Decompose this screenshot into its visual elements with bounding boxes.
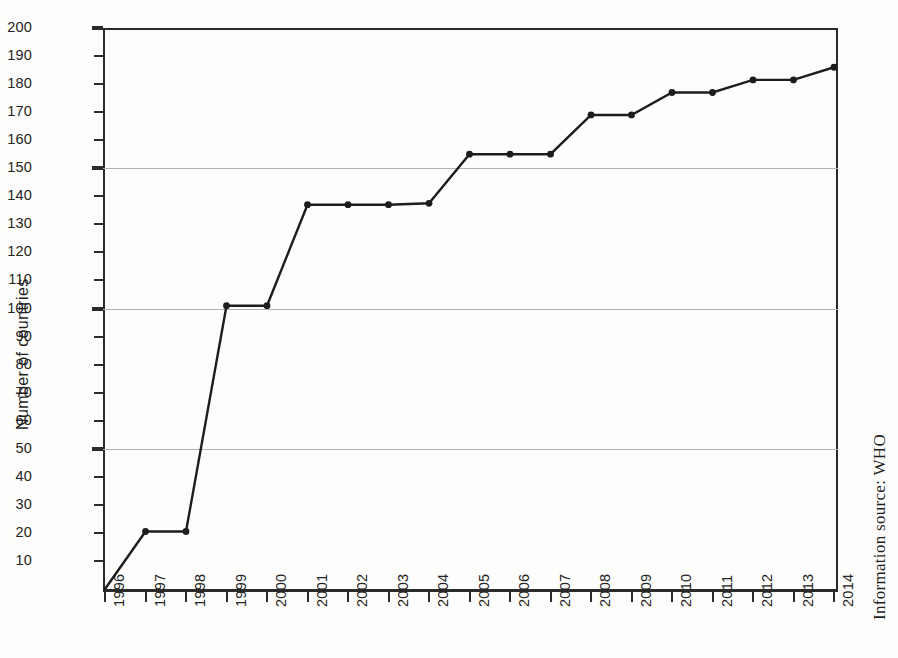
y-tick-90: [94, 336, 103, 338]
y-tick-label-50: 50: [0, 440, 32, 456]
x-tick-2011: [712, 591, 714, 602]
y-tick-50: [92, 447, 103, 451]
x-tick-2013: [793, 591, 795, 602]
y-tick-label-170: 170: [0, 103, 32, 119]
y-tick-140: [94, 195, 103, 197]
y-tick-200: [92, 26, 103, 30]
x-tick-2001: [307, 591, 309, 602]
data-point-2008: [588, 112, 595, 119]
chart-page: Number of countries Information source: …: [0, 0, 898, 658]
data-point-2014: [831, 64, 838, 71]
y-tick-120: [94, 251, 103, 253]
data-point-2000: [264, 302, 271, 309]
y-tick-label-140: 140: [0, 187, 32, 203]
y-tick-160: [94, 139, 103, 141]
y-tick-170: [94, 111, 103, 113]
y-tick-label-10: 10: [0, 552, 32, 568]
y-tick-label-40: 40: [0, 468, 32, 484]
y-tick-label-130: 130: [0, 215, 32, 231]
series-markers: [142, 64, 837, 535]
data-point-2004: [426, 200, 433, 207]
x-tick-2008: [590, 591, 592, 602]
x-tick-1997: [145, 591, 147, 602]
y-tick-label-80: 80: [0, 356, 32, 372]
y-tick-190: [94, 55, 103, 57]
x-tick-2006: [509, 591, 511, 602]
x-tick-2007: [550, 591, 552, 602]
y-tick-20: [94, 532, 103, 534]
x-tick-2014: [833, 591, 835, 602]
x-tick-2004: [428, 591, 430, 602]
data-point-2002: [345, 201, 352, 208]
data-point-2006: [507, 151, 514, 158]
y-tick-label-100: 100: [0, 300, 32, 316]
x-tick-2009: [631, 591, 633, 602]
x-tick-2005: [469, 591, 471, 602]
y-tick-label-90: 90: [0, 328, 32, 344]
y-tick-60: [94, 420, 103, 422]
data-point-2007: [547, 151, 554, 158]
y-tick-80: [94, 364, 103, 366]
x-tick-1996: [104, 591, 106, 602]
data-point-2005: [466, 151, 473, 158]
data-point-2010: [669, 89, 676, 96]
plot-area: 1020304050607080901001101201301401501601…: [103, 28, 838, 591]
y-tick-label-30: 30: [0, 496, 32, 512]
x-tick-2010: [671, 591, 673, 602]
data-point-2001: [304, 201, 311, 208]
data-point-2009: [628, 112, 635, 119]
y-tick-100: [92, 307, 103, 311]
y-tick-180: [94, 83, 103, 85]
y-tick-10: [94, 560, 103, 562]
data-point-2012: [750, 76, 757, 83]
x-tick-label-2014: 2014: [840, 574, 856, 607]
x-tick-1999: [226, 591, 228, 602]
data-point-2011: [709, 89, 716, 96]
x-tick-2000: [266, 591, 268, 602]
y-tick-150: [92, 166, 103, 170]
series-polyline: [105, 67, 834, 589]
y-tick-label-20: 20: [0, 524, 32, 540]
y-tick-40: [94, 476, 103, 478]
y-tick-label-120: 120: [0, 243, 32, 259]
data-point-1997: [142, 528, 149, 535]
data-point-1999: [223, 302, 230, 309]
y-tick-label-70: 70: [0, 384, 32, 400]
y-tick-30: [94, 504, 103, 506]
y-tick-label-160: 160: [0, 131, 32, 147]
y-tick-label-60: 60: [0, 412, 32, 428]
x-tick-2012: [752, 591, 754, 602]
y-tick-label-200: 200: [0, 19, 32, 35]
y-tick-130: [94, 223, 103, 225]
data-point-1998: [183, 528, 190, 535]
y-tick-label-150: 150: [0, 159, 32, 175]
x-tick-2002: [347, 591, 349, 602]
data-point-2003: [385, 201, 392, 208]
y-tick-label-190: 190: [0, 47, 32, 63]
x-tick-2003: [388, 591, 390, 602]
series-line-chart: [103, 28, 838, 592]
data-point-2013: [790, 76, 797, 83]
source-note: Information source: WHO: [870, 434, 890, 620]
y-tick-110: [94, 279, 103, 281]
y-tick-70: [94, 392, 103, 394]
x-tick-1998: [185, 591, 187, 602]
y-tick-label-110: 110: [0, 271, 32, 287]
y-tick-label-180: 180: [0, 75, 32, 91]
